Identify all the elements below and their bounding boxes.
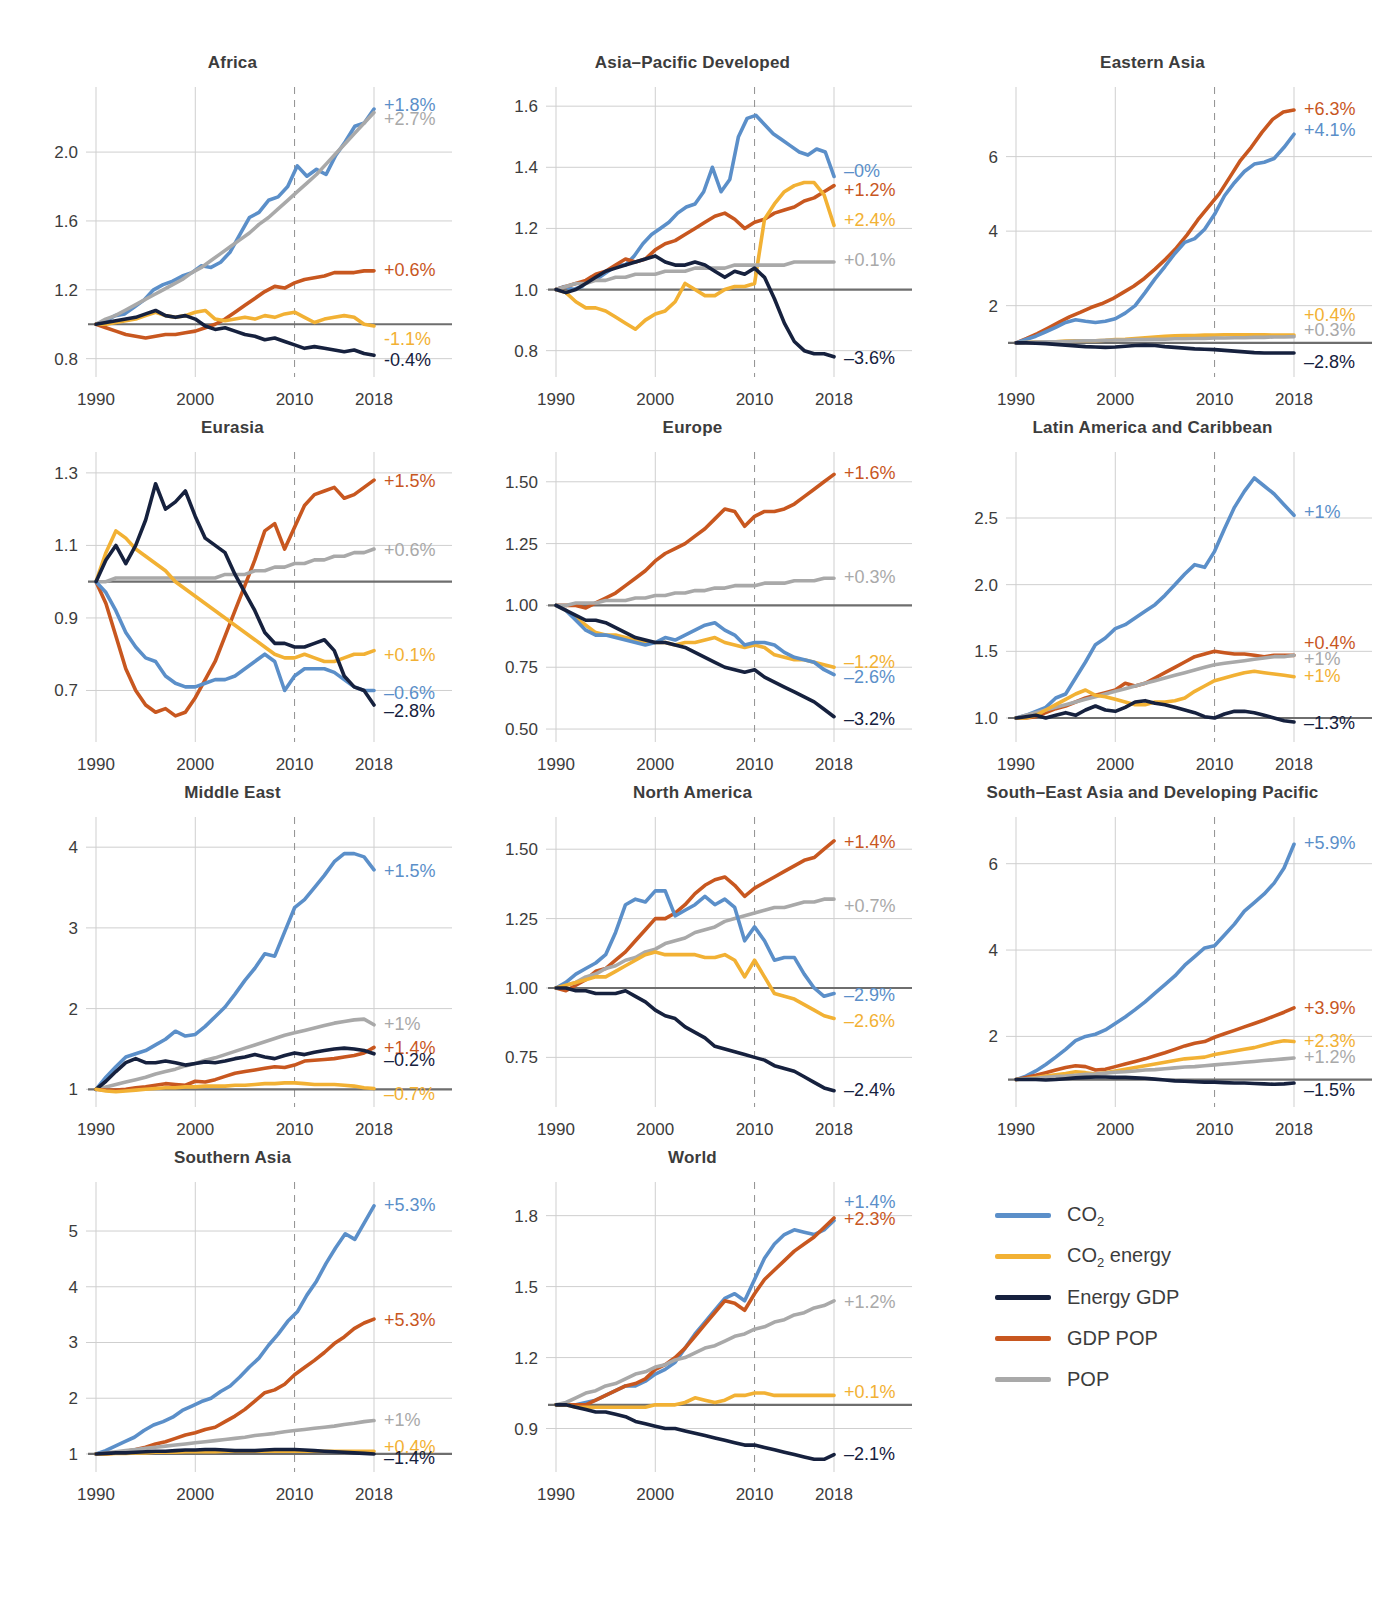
legend-swatch-icon	[995, 1295, 1051, 1300]
x-tick-label: 2010	[736, 390, 774, 409]
y-tick-label: 0.75	[505, 1048, 538, 1067]
series-line	[1016, 844, 1294, 1079]
panel-plot: 1.01.52.02.51990200020102018+1%+0.4%+1%+…	[920, 410, 1385, 775]
panel-latin-america-and-caribbean: Latin America and Caribbean1.01.52.02.51…	[920, 410, 1385, 775]
series-growth-label: +0.6%	[384, 260, 436, 280]
legend-label: CO2 energy	[1067, 1244, 1171, 1270]
series-line	[556, 578, 834, 605]
series-growth-label: +0.1%	[844, 1382, 896, 1402]
series-growth-label: +1.5%	[384, 471, 436, 491]
series-line	[1016, 134, 1294, 343]
y-tick-label: 0.75	[505, 658, 538, 677]
panel-world: World0.91.21.51.81990200020102018+1.4%+2…	[460, 1140, 925, 1505]
series-line	[556, 474, 834, 608]
series-growth-label: –0.7%	[384, 1084, 435, 1104]
y-tick-label: 1.25	[505, 535, 538, 554]
y-tick-label: 3	[69, 1333, 78, 1352]
y-tick-label: 1.0	[974, 709, 998, 728]
series-growth-label: –3.2%	[844, 709, 895, 729]
x-tick-label: 2018	[815, 1120, 853, 1139]
series-growth-label: +1.5%	[384, 861, 436, 881]
series-growth-label: +0.7%	[844, 896, 896, 916]
panel-plot: 0.70.91.11.31990200020102018+1.5%+0.6%+0…	[0, 410, 465, 775]
series-line	[556, 988, 834, 1091]
legend-swatch-icon	[995, 1254, 1051, 1259]
y-tick-label: 0.50	[505, 720, 538, 739]
x-tick-label: 2010	[276, 755, 314, 774]
x-tick-label: 2018	[815, 1485, 853, 1504]
legend-swatch-icon	[995, 1213, 1051, 1218]
legend-gdp-pop[interactable]: GDP POP	[995, 1318, 1325, 1359]
x-tick-label: 2018	[355, 390, 393, 409]
panel-middle-east: Middle East12341990200020102018+1.5%+1%+…	[0, 775, 465, 1140]
series-growth-label: –0.6%	[384, 683, 435, 703]
series-line	[556, 899, 834, 988]
y-tick-label: 2.0	[974, 576, 998, 595]
x-tick-label: 2000	[176, 755, 214, 774]
y-tick-label: 1.2	[54, 281, 78, 300]
x-tick-label: 1990	[77, 390, 115, 409]
y-tick-label: 1.1	[54, 536, 78, 555]
series-line	[1016, 655, 1294, 718]
panel-africa: Africa0.81.21.62.01990200020102018+1.8%+…	[0, 45, 465, 410]
x-tick-label: 2010	[276, 1485, 314, 1504]
y-tick-label: 2	[69, 1389, 78, 1408]
legend-energy-gdp[interactable]: Energy GDP	[995, 1277, 1325, 1318]
x-tick-label: 1990	[997, 755, 1035, 774]
panel-south-east-asia-and-developing-pacific: South–East Asia and Developing Pacific24…	[920, 775, 1385, 1140]
series-growth-label: +6.3%	[1304, 99, 1356, 119]
y-tick-label: 6	[989, 855, 998, 874]
legend-swatch-icon	[995, 1377, 1051, 1382]
legend-co2[interactable]: CO2	[995, 1195, 1325, 1236]
series-growth-label: +1%	[1304, 502, 1341, 522]
series-growth-label: -1.1%	[384, 329, 431, 349]
series-growth-label: +1.4%	[844, 832, 896, 852]
legend-co2-energy[interactable]: CO2 energy	[995, 1236, 1325, 1277]
panel-plot: 0.81.01.21.41.61990200020102018–0%+1.2%+…	[460, 45, 925, 410]
series-line	[556, 1405, 834, 1459]
y-tick-label: 2	[989, 1027, 998, 1046]
x-tick-label: 2018	[1275, 755, 1313, 774]
series-line	[96, 582, 374, 691]
legend-label: Energy GDP	[1067, 1286, 1179, 1309]
panel-plot: 0.751.001.251.501990200020102018+1.4%+0.…	[460, 775, 925, 1140]
y-tick-label: 4	[69, 838, 78, 857]
y-tick-label: 1.00	[505, 979, 538, 998]
x-tick-label: 2000	[1096, 755, 1134, 774]
legend-pop[interactable]: POP	[995, 1359, 1325, 1400]
y-tick-label: 2.5	[974, 509, 998, 528]
series-line	[556, 1220, 834, 1404]
series-growth-label: +0.1%	[384, 645, 436, 665]
series-growth-label: +5.3%	[384, 1310, 436, 1330]
series-growth-label: +1.2%	[844, 180, 896, 200]
x-tick-label: 1990	[997, 390, 1035, 409]
chart-legend: CO2CO2 energyEnergy GDPGDP POPPOP	[995, 1195, 1325, 1400]
series-growth-label: +1%	[384, 1410, 421, 1430]
panel-asia-pacific-developed: Asia–Pacific Developed0.81.01.21.41.6199…	[460, 45, 925, 410]
series-growth-label: –0%	[844, 161, 880, 181]
y-tick-label: 4	[69, 1278, 78, 1297]
y-tick-label: 1.6	[54, 212, 78, 231]
x-tick-label: 2010	[1196, 1120, 1234, 1139]
series-growth-label: –1.3%	[1304, 713, 1355, 733]
y-tick-label: 1.5	[514, 1278, 538, 1297]
y-tick-label: 1.50	[505, 473, 538, 492]
legend-label: CO2	[1067, 1203, 1104, 1229]
series-growth-label: –2.6%	[844, 667, 895, 687]
series-growth-label: +0.3%	[844, 567, 896, 587]
x-tick-label: 1990	[537, 1120, 575, 1139]
panel-southern-asia: Southern Asia123451990200020102018+5.3%+…	[0, 1140, 465, 1505]
y-tick-label: 1.2	[514, 219, 538, 238]
x-tick-label: 2010	[276, 390, 314, 409]
y-tick-label: 2.0	[54, 143, 78, 162]
panel-plot: 0.500.751.001.251.501990200020102018+1.6…	[460, 410, 925, 775]
series-growth-label: +4.1%	[1304, 120, 1356, 140]
y-tick-label: 0.9	[514, 1420, 538, 1439]
x-tick-label: 2000	[636, 1485, 674, 1504]
x-tick-label: 2000	[1096, 390, 1134, 409]
series-growth-label: +0.3%	[1304, 320, 1356, 340]
x-tick-label: 1990	[77, 1485, 115, 1504]
y-tick-label: 4	[989, 222, 998, 241]
x-tick-label: 2000	[1096, 1120, 1134, 1139]
series-growth-label: +2.3%	[844, 1209, 896, 1229]
